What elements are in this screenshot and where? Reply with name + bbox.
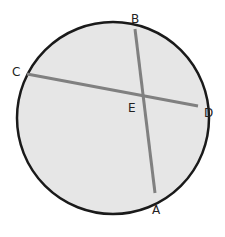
circle-chords-diagram: A B C D E bbox=[0, 0, 225, 237]
point-label-c: C bbox=[12, 65, 20, 79]
point-label-b: B bbox=[131, 12, 139, 26]
point-label-a: A bbox=[152, 203, 161, 217]
circle bbox=[17, 22, 209, 214]
point-label-d: D bbox=[204, 106, 213, 120]
point-label-e: E bbox=[128, 101, 136, 115]
